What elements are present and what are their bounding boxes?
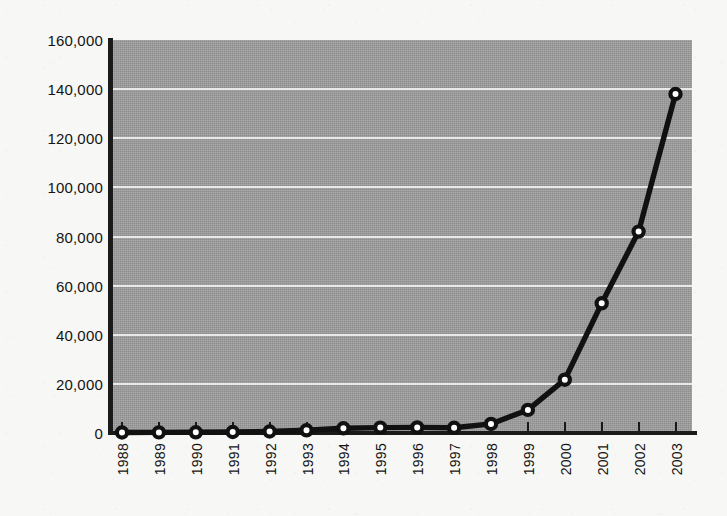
x-axis-tick-label: 1989 [152,443,168,475]
x-axis-tick-label: 1997 [447,443,463,475]
y-axis-tick-label: 0 [3,425,103,442]
x-axis-tick-label: 1992 [263,443,279,475]
y-axis-tick-label: 120,000 [3,130,103,147]
y-axis-tick-label: 140,000 [3,81,103,98]
x-axis-tick-label: 2001 [595,443,611,475]
x-axis-tick-label: 1995 [373,443,389,475]
x-axis-tick-mark [416,422,418,431]
x-axis-tick-mark [601,422,603,431]
gridline [113,285,692,287]
x-axis-tick-mark [121,422,123,431]
x-axis-tick-label: 1996 [410,443,426,475]
x-axis-tick-label: 1998 [484,443,500,475]
x-axis-tick-mark [232,422,234,431]
x-axis-tick-label: 1991 [226,443,242,475]
x-axis-tick-label: 1994 [336,443,352,475]
gridline [113,236,692,238]
y-axis-tick-label: 100,000 [3,179,103,196]
gridline [113,137,692,139]
x-axis-tick-mark [306,422,308,431]
x-axis-tick-mark [490,422,492,431]
x-axis-tick-label: 2002 [632,443,648,475]
plot-area [113,40,692,433]
y-axis-tick-label: 160,000 [3,32,103,49]
gridline [113,186,692,188]
x-axis-tick-mark [638,422,640,431]
x-axis-tick-label: 2003 [669,443,685,475]
x-axis-tick-label: 1990 [189,443,205,475]
y-axis-line [108,38,113,435]
y-axis-tick-label: 20,000 [3,375,103,392]
x-axis-tick-label: 2000 [558,443,574,475]
x-axis-line [108,431,697,435]
x-axis-tick-mark [158,422,160,431]
x-axis-tick-mark [675,422,677,431]
x-axis-tick-mark [564,422,566,431]
line-chart-figure: 020,00040,00060,00080,000100,000120,0001… [0,0,727,516]
x-axis-tick-label: 1999 [521,443,537,475]
y-axis-tick-label: 40,000 [3,326,103,343]
x-axis-tick-mark [527,422,529,431]
y-axis-tick-label: 80,000 [3,228,103,245]
x-axis-tick-label: 1988 [115,443,131,475]
x-axis-tick-mark [379,422,381,431]
x-axis-tick-mark [342,422,344,431]
x-axis-tick-mark [195,422,197,431]
x-axis-tick-label: 1993 [300,443,316,475]
y-axis-tick-labels: 020,00040,00060,00080,000100,000120,0001… [0,0,103,516]
y-axis-tick-label: 60,000 [3,277,103,294]
gridline [113,383,692,385]
x-axis-tick-mark [453,422,455,431]
gridline [113,334,692,336]
x-axis-tick-mark [269,422,271,431]
gridline [113,88,692,90]
